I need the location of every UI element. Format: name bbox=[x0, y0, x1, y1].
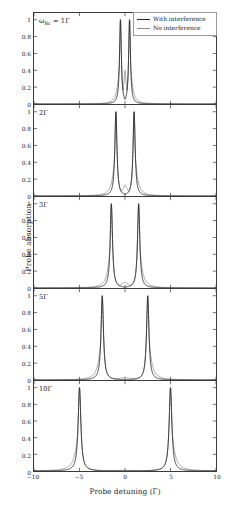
y-tick-label: 0.8 bbox=[22, 34, 31, 40]
panel-5: 10Γ00.20.40.60.81 bbox=[33, 380, 217, 472]
y-tick-label: 0.8 bbox=[22, 402, 31, 408]
y-tick-label: 1 bbox=[27, 201, 31, 207]
panel-2: 2Γ00.20.40.60.81 bbox=[33, 104, 217, 196]
y-tick-label: 0 bbox=[27, 102, 31, 108]
x-tick-label: −10 bbox=[27, 474, 39, 480]
y-tick-label: 0.2 bbox=[22, 453, 31, 459]
x-axis-ticks: −10−50510 bbox=[33, 474, 217, 486]
y-tick-label: 1 bbox=[27, 109, 31, 115]
plot-area-3 bbox=[34, 197, 216, 288]
y-tick-label: 0.6 bbox=[22, 419, 31, 425]
panel-stack: ωRc = 1Γ00.20.40.60.812Γ00.20.40.60.813Γ… bbox=[33, 12, 217, 472]
legend-item-1: With interference bbox=[136, 15, 214, 24]
y-tick-label: 0.6 bbox=[22, 235, 31, 241]
y-tick-label: 0.4 bbox=[22, 436, 31, 442]
x-tick-label: −5 bbox=[75, 474, 84, 480]
curve-no-interference bbox=[34, 388, 216, 471]
figure-probe-absorption: Probe absorption Probe detuning (Γ) ωRc … bbox=[0, 0, 233, 512]
y-tick-label: 0.6 bbox=[22, 143, 31, 149]
y-tick-label: 0.2 bbox=[22, 177, 31, 183]
y-tick-label: 1 bbox=[27, 385, 31, 391]
curve-with-interference bbox=[34, 112, 216, 196]
curve-with-interference bbox=[34, 388, 216, 471]
panel-label-1: ωRc = 1Γ bbox=[39, 17, 70, 26]
y-tick-label: 0 bbox=[27, 286, 31, 292]
plot-area-5 bbox=[34, 381, 216, 471]
y-tick-label: 0.4 bbox=[22, 252, 31, 258]
curve-no-interference bbox=[34, 204, 216, 288]
y-tick-label: 0 bbox=[27, 194, 31, 200]
x-tick-label: 0 bbox=[123, 474, 127, 480]
y-tick-label: 0.6 bbox=[22, 51, 31, 57]
panel-label-2: 2Γ bbox=[39, 109, 48, 117]
x-axis-title: Probe detuning (Γ) bbox=[33, 487, 217, 496]
y-tick-label: 0.8 bbox=[22, 126, 31, 132]
y-tick-label: 1 bbox=[27, 17, 31, 23]
legend-label: With interference bbox=[153, 15, 206, 24]
panel-label-4: 5Γ bbox=[39, 293, 48, 301]
y-tick-label: 0.2 bbox=[22, 361, 31, 367]
curve-no-interference bbox=[34, 112, 216, 196]
y-tick-label: 0.4 bbox=[22, 344, 31, 350]
curve-no-interference bbox=[34, 296, 216, 380]
y-tick-label: 0.2 bbox=[22, 269, 31, 275]
plot-area-2 bbox=[34, 105, 216, 196]
y-tick-label: 0.4 bbox=[22, 68, 31, 74]
curve-with-interference bbox=[34, 204, 216, 288]
panel-label-value: = 1Γ bbox=[51, 17, 70, 25]
panel-label-3: 3Γ bbox=[39, 201, 48, 209]
y-tick-label: 0.4 bbox=[22, 160, 31, 166]
y-tick-label: 0.8 bbox=[22, 310, 31, 316]
legend-label: No interference bbox=[153, 24, 200, 33]
legend: With interferenceNo interference bbox=[133, 12, 217, 36]
y-tick-label: 0.6 bbox=[22, 327, 31, 333]
x-tick-label: 10 bbox=[213, 474, 221, 480]
y-tick-label: 0 bbox=[27, 378, 31, 384]
panel-label-5: 10Γ bbox=[39, 385, 52, 393]
legend-item-2: No interference bbox=[136, 24, 214, 33]
legend-line-swatch bbox=[137, 19, 150, 20]
panel-3: 3Γ00.20.40.60.81 bbox=[33, 196, 217, 288]
x-tick-label: 5 bbox=[169, 474, 173, 480]
y-tick-label: 1 bbox=[27, 293, 31, 299]
panel-4: 5Γ00.20.40.60.81 bbox=[33, 288, 217, 380]
plot-area-4 bbox=[34, 289, 216, 380]
y-tick-label: 0.2 bbox=[22, 85, 31, 91]
legend-line-swatch bbox=[137, 28, 150, 29]
curve-with-interference bbox=[34, 296, 216, 380]
y-tick-label: 0.8 bbox=[22, 218, 31, 224]
